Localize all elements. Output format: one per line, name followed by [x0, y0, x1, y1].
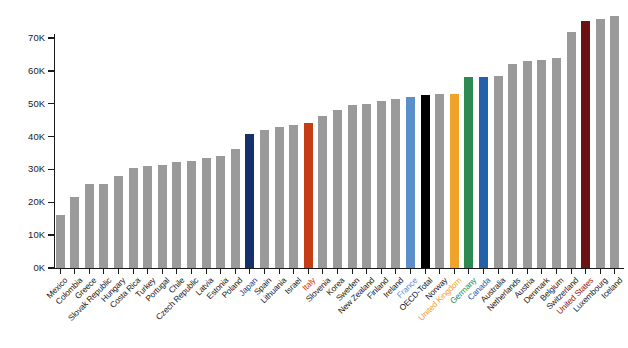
y-axis-tick-label: 70K — [4, 33, 45, 43]
x-axis-tick — [264, 269, 265, 274]
y-axis-tick — [48, 37, 55, 38]
x-axis-tick — [439, 269, 440, 274]
x-axis-tick — [366, 269, 367, 274]
x-axis-tick — [191, 269, 192, 274]
bar-australia — [494, 76, 503, 268]
x-axis-tick — [308, 269, 309, 274]
x-axis-tick — [162, 269, 163, 274]
x-axis-tick — [395, 269, 396, 274]
x-axis-tick — [89, 269, 90, 274]
x-axis-tick — [176, 269, 177, 274]
bar-costa-rica — [129, 168, 138, 268]
y-axis-tick-label: 0K — [4, 263, 45, 273]
bar-turkey — [143, 166, 152, 268]
bar-france — [406, 97, 415, 268]
x-axis-tick — [498, 269, 499, 274]
y-axis-tick — [48, 169, 55, 170]
bar-netherlands — [508, 64, 517, 268]
x-axis-tick — [585, 269, 586, 274]
y-axis-tick-label: 50K — [4, 99, 45, 109]
x-axis-tick — [352, 269, 353, 274]
x-axis-tick — [293, 269, 294, 274]
y-axis-tick — [48, 70, 55, 71]
y-axis-tick — [48, 136, 55, 137]
bar-chart: 0K10K20K30K40K50K60K70K MexicoColombiaGr… — [0, 0, 628, 348]
x-axis-tick — [206, 269, 207, 274]
x-axis-tick — [614, 269, 615, 274]
bar-latvia — [202, 158, 211, 268]
y-axis-tick-label: 60K — [4, 66, 45, 76]
bar-greece — [85, 184, 94, 268]
bar-israel — [289, 125, 298, 268]
y-axis-tick-label: 40K — [4, 132, 45, 142]
x-axis-tick — [600, 269, 601, 274]
bar-mexico — [56, 215, 65, 268]
bar-united-kingdom — [450, 94, 459, 268]
y-axis-tick-label: 30K — [4, 164, 45, 174]
y-axis-tick-label: 20K — [4, 197, 45, 207]
bar-canada — [479, 77, 488, 268]
bar-new-zealand — [362, 104, 371, 268]
x-axis-tick — [60, 269, 61, 274]
bar-korea — [333, 110, 342, 268]
x-axis-tick — [571, 269, 572, 274]
x-axis-tick — [454, 269, 455, 274]
x-axis-line — [54, 268, 624, 269]
x-axis-tick — [322, 269, 323, 274]
bar-lithuania — [275, 127, 284, 268]
x-axis-tick — [118, 269, 119, 274]
bar-sweden — [348, 105, 357, 268]
x-axis-tick — [381, 269, 382, 274]
bar-czech-republic — [187, 161, 196, 268]
bar-poland — [231, 149, 240, 268]
bar-luxembourg — [596, 19, 605, 268]
bar-slovak-republic — [99, 184, 108, 268]
bar-oecd-total — [421, 95, 430, 268]
x-axis-tick — [235, 269, 236, 274]
x-axis-tick — [74, 269, 75, 274]
y-axis-tick-label: 10K — [4, 230, 45, 240]
bar-italy — [304, 123, 313, 268]
bar-hungary — [114, 176, 123, 268]
bar-japan — [245, 134, 254, 268]
y-axis-tick — [48, 202, 55, 203]
bar-norway — [435, 94, 444, 268]
x-axis-tick — [337, 269, 338, 274]
bar-ireland — [391, 99, 400, 268]
bar-switzerland — [567, 32, 576, 268]
x-axis-tick — [556, 269, 557, 274]
bar-germany — [464, 77, 473, 268]
y-axis-tick — [48, 103, 55, 104]
bar-united-states — [581, 21, 590, 268]
x-axis-tick — [512, 269, 513, 274]
x-axis-tick — [147, 269, 148, 274]
bar-portugal — [158, 165, 167, 268]
bar-denmark — [537, 60, 546, 268]
bar-colombia — [70, 197, 79, 268]
x-axis-tick — [527, 269, 528, 274]
bar-spain — [260, 130, 269, 268]
bar-iceland — [610, 16, 619, 268]
bar-austria — [523, 61, 532, 268]
x-axis-tick — [483, 269, 484, 274]
y-axis-tick — [48, 234, 55, 235]
x-axis-tick — [279, 269, 280, 274]
bar-slovenia — [318, 116, 327, 268]
x-axis-tick — [220, 269, 221, 274]
bar-chile — [172, 162, 181, 268]
x-axis-tick — [468, 269, 469, 274]
x-axis-tick — [541, 269, 542, 274]
bar-finland — [377, 101, 386, 268]
bar-estonia — [216, 156, 225, 268]
bar-belgium — [552, 58, 561, 268]
x-axis-tick — [425, 269, 426, 274]
bars-layer — [55, 8, 621, 268]
x-axis-tick — [410, 269, 411, 274]
x-axis-tick — [133, 269, 134, 274]
x-axis-tick — [103, 269, 104, 274]
x-axis-tick — [249, 269, 250, 274]
